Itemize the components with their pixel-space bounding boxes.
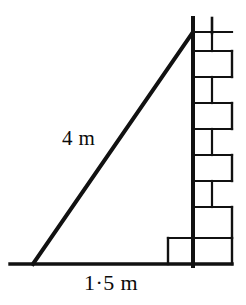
ladder-length-label: 4 m <box>62 126 95 151</box>
base-distance-label: 1·5 m <box>84 270 138 296</box>
ladder-hypotenuse-line <box>33 32 193 264</box>
ladder-wall-diagram <box>0 0 246 305</box>
diagram-canvas: 4 m 1·5 m <box>0 0 246 305</box>
